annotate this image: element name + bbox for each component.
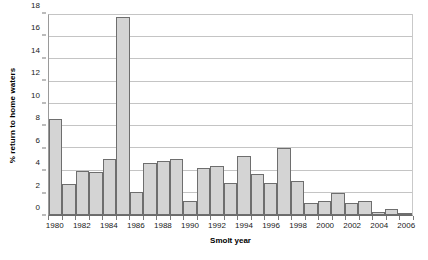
x-axis-tick-label: 1998 — [289, 221, 307, 230]
x-axis-title: Smolt year — [48, 236, 413, 245]
y-axis-tick-mark — [42, 13, 46, 14]
bar-slot — [49, 15, 62, 215]
bar-slot — [331, 15, 344, 215]
x-axis-tick-label: 1996 — [262, 221, 280, 230]
x-axis-tick-label: 1994 — [235, 221, 253, 230]
bar-slot — [358, 15, 371, 215]
bar — [358, 201, 371, 215]
bar-slot — [345, 15, 358, 215]
x-axis-tick-label: 2000 — [316, 221, 334, 230]
bar — [331, 193, 344, 215]
bar-slot — [264, 15, 277, 215]
bar-slot — [130, 15, 143, 215]
x-axis-tick-label: 1984 — [100, 221, 118, 230]
bar-slot — [237, 15, 250, 215]
y-axis-tick-label: 18 — [31, 2, 40, 10]
y-axis-tick-labels: 024681012141618 — [0, 14, 46, 216]
bar — [345, 203, 358, 215]
x-axis-tick-label: 2006 — [397, 221, 415, 230]
bar-slot — [89, 15, 102, 215]
y-axis-tick-label: 12 — [31, 69, 40, 77]
x-axis-tick-mark — [386, 216, 387, 220]
x-axis-tick-label: 1990 — [181, 221, 199, 230]
bar — [304, 203, 317, 215]
bar-slot — [304, 15, 317, 215]
x-axis-tick-labels: 1980198219841986198819901992199419961998… — [48, 221, 413, 233]
x-axis-tick-label: 1982 — [73, 221, 91, 230]
x-axis-tick-mark — [102, 216, 103, 220]
bar — [130, 192, 143, 215]
bar-slot — [103, 15, 116, 215]
bar-slot — [157, 15, 170, 215]
bar-slot — [251, 15, 264, 215]
bar-slot — [76, 15, 89, 215]
bar — [237, 156, 250, 215]
y-axis-tick-mark — [42, 35, 46, 36]
bar — [62, 184, 75, 215]
x-axis-tick-mark — [359, 216, 360, 220]
x-axis-tick-label: 1986 — [127, 221, 145, 230]
bar — [372, 212, 385, 215]
bar — [49, 119, 62, 215]
bar-chart: % return to home waters 024681012141618 … — [0, 0, 428, 260]
y-axis-tick-label: 8 — [36, 114, 40, 122]
bar-slot — [197, 15, 210, 215]
bar-slot — [224, 15, 237, 215]
bar — [264, 183, 277, 215]
x-axis-tick-mark — [197, 216, 198, 220]
x-axis-tick-label: 1988 — [154, 221, 172, 230]
x-axis-tick-mark — [183, 216, 184, 220]
x-axis-tick-mark — [89, 216, 90, 220]
x-axis-tick-mark — [116, 216, 117, 220]
bar — [89, 172, 102, 215]
y-axis-tick-mark — [42, 170, 46, 171]
x-axis-tick-label: 2002 — [343, 221, 361, 230]
x-axis-tick-mark — [318, 216, 319, 220]
bar-slot — [210, 15, 223, 215]
bar — [103, 159, 116, 215]
x-axis-tick-label: 1992 — [208, 221, 226, 230]
x-axis-tick-mark — [129, 216, 130, 220]
bar — [224, 183, 237, 215]
bar — [251, 174, 264, 215]
y-axis-tick-label: 6 — [36, 137, 40, 145]
bar-slot — [62, 15, 75, 215]
bar-slot — [318, 15, 331, 215]
y-axis-tick-mark — [42, 147, 46, 148]
y-axis-tick-mark — [42, 102, 46, 103]
bars-layer — [49, 15, 412, 215]
x-axis-tick-mark — [251, 216, 252, 220]
bar — [318, 201, 331, 215]
x-axis-tick-mark — [291, 216, 292, 220]
y-axis-tick-label: 4 — [36, 159, 40, 167]
bar — [183, 201, 196, 215]
x-axis-tick-mark — [210, 216, 211, 220]
y-axis-tick-mark — [42, 80, 46, 81]
x-axis-tick-mark — [372, 216, 373, 220]
bar-slot — [170, 15, 183, 215]
x-axis-tick-mark — [224, 216, 225, 220]
x-axis-tick-mark — [170, 216, 171, 220]
y-axis-tick-mark — [42, 125, 46, 126]
x-axis-tick-mark — [156, 216, 157, 220]
bar-slot — [372, 15, 385, 215]
bar-slot — [385, 15, 398, 215]
y-axis-tick-label: 2 — [36, 182, 40, 190]
bar-slot — [291, 15, 304, 215]
y-axis-tick-label: 10 — [31, 92, 40, 100]
bar-slot — [398, 15, 411, 215]
y-axis-tick-mark — [42, 57, 46, 58]
x-axis-tick-mark — [413, 216, 414, 220]
bar — [210, 166, 223, 215]
bar — [385, 209, 398, 215]
bar — [170, 159, 183, 215]
bar-slot — [143, 15, 156, 215]
x-axis-tick-label: 2004 — [370, 221, 388, 230]
bar — [197, 168, 210, 215]
bar — [116, 17, 129, 215]
x-axis-tick-label: 1980 — [46, 221, 64, 230]
y-axis-tick-label: 14 — [31, 47, 40, 55]
y-axis-tick-label: 0 — [36, 204, 40, 212]
bar — [291, 181, 304, 215]
x-axis-tick-mark — [62, 216, 63, 220]
